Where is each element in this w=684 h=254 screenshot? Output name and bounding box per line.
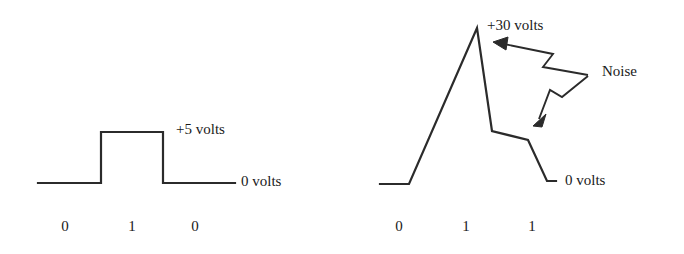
clean-signal-waveform	[38, 132, 235, 183]
clean-signal-bit-2: 0	[185, 219, 205, 234]
noisy-signal-low-level-label: 0 volts	[565, 173, 605, 188]
noisy-signal-bit-2: 1	[522, 219, 542, 234]
noise-upper-lightning-path	[499, 43, 588, 75]
noise-upper-arrowhead-icon	[493, 37, 508, 50]
clean-signal-bit-0: 0	[55, 219, 75, 234]
noisy-signal-trace	[380, 28, 556, 184]
noisy-signal-waveform	[380, 28, 556, 184]
waveform-drawing-layer	[0, 0, 684, 254]
clean-signal-high-level-label: +5 volts	[176, 122, 225, 137]
clean-signal-low-level-label: 0 volts	[241, 174, 281, 189]
noise-label: Noise	[602, 64, 637, 79]
noisy-signal-high-level-label: +30 volts	[487, 18, 543, 33]
noise-upper-lightning-arrow	[493, 37, 588, 75]
signal-waveform-figure: +5 volts 0 volts 0 1 0 +30 volts Noise 0…	[0, 0, 684, 254]
noise-lower-lightning-arrow	[533, 76, 588, 127]
noisy-signal-bit-1: 1	[456, 219, 476, 234]
noise-lower-lightning-path	[539, 76, 588, 119]
clean-signal-bit-1: 1	[122, 219, 142, 234]
clean-signal-trace	[38, 132, 235, 183]
noisy-signal-bit-0: 0	[389, 219, 409, 234]
